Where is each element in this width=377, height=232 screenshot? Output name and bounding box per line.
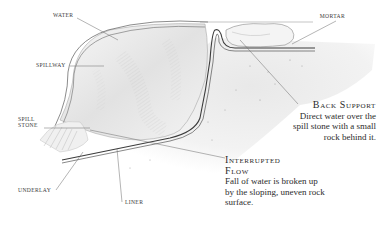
spill-stone (40, 121, 88, 152)
callout-interrupted-flow-title-2: Flow (225, 165, 249, 176)
label-underlay: UNDERLAY (18, 188, 51, 194)
label-spillway: SPILLWAY (36, 63, 66, 69)
label-spill-stone: SPILL STONE (18, 117, 38, 129)
callout-back-support: Back Support Direct water over the spill… (292, 100, 376, 142)
leader-mortar (292, 21, 336, 44)
callout-back-support-title: Back Support (313, 99, 376, 110)
callout-interrupted-flow: Interrupted Flow Fall of water is broken… (225, 155, 325, 208)
label-mortar: MORTAR (320, 14, 345, 20)
callout-interrupted-flow-title-1: Interrupted (225, 154, 280, 165)
label-liner: LINER (125, 200, 143, 206)
spillway-diagram: WATER MORTAR SPILLWAY SPILL STONE UNDERL… (0, 0, 377, 232)
callout-interrupted-flow-body: Fall of water is broken up by the slopin… (225, 176, 325, 208)
leader-underlay (56, 152, 83, 190)
callout-back-support-body: Direct water over the spill stone with a… (292, 111, 376, 143)
label-spill-stone-line2: STONE (18, 122, 38, 128)
label-water: WATER (53, 13, 73, 19)
